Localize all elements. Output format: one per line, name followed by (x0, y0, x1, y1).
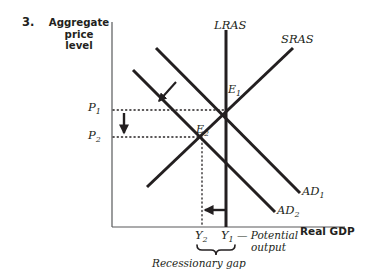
price-level-p1-text: P (88, 100, 96, 114)
ad-shift-arrow (159, 82, 176, 101)
ad1-curve (156, 48, 300, 193)
price-level-p1-subscript: 1 (96, 107, 101, 116)
price-level-p2-subscript: 2 (96, 135, 101, 144)
recessionary-gap-brace (197, 245, 235, 255)
equilibrium-e1-label: E1 (228, 84, 241, 98)
ad-as-recessionary-gap-figure: 3. Aggregatepricelevel Real GDP LRAS SRA… (0, 0, 374, 279)
potential-output-line2: output (237, 241, 315, 253)
equilibrium-e2-subscript: 2 (204, 129, 209, 138)
output-y2-label: Y2 (195, 229, 208, 244)
output-y1-subscript: 1 (229, 235, 234, 244)
y-axis-title: Aggregatepricelevel (48, 17, 110, 52)
potential-output-line1: — Potential (237, 229, 298, 241)
sras-curve (147, 48, 293, 187)
output-y2-subscript: 2 (203, 235, 208, 244)
output-y2-text: Y (195, 228, 203, 242)
y-axis-title-line3: level (65, 40, 92, 51)
potential-output-annotation: — Potentialoutput (237, 229, 315, 253)
price-level-p1-label: P1 (88, 101, 101, 116)
ad2-curve-label: AD2 (277, 204, 300, 219)
price-level-p2-label: P2 (88, 129, 101, 144)
ad2-curve-label-text: AD (277, 203, 295, 217)
equilibrium-e1-subscript: 1 (236, 89, 241, 98)
sras-curve-label: SRAS (281, 33, 314, 46)
ad1-curve-label-subscript: 1 (320, 191, 325, 200)
ad1-curve-label-text: AD (302, 184, 320, 198)
ad2-curve (133, 70, 275, 212)
ad2-curve-label-subscript: 2 (295, 210, 300, 219)
price-level-p2-text: P (88, 128, 96, 142)
y-axis-title-line1: Aggregate (49, 17, 109, 28)
ad1-curve-label: AD1 (302, 185, 325, 200)
output-y1-label: Y1 (221, 229, 234, 244)
equilibrium-e2-label: E2 (196, 124, 209, 138)
equilibrium-e2-text: E (196, 123, 204, 136)
output-y1-text: Y (221, 228, 229, 242)
equilibrium-e1-text: E (228, 83, 236, 96)
lras-curve-label: LRAS (214, 19, 246, 32)
recessionary-gap-annotation: Recessionary gap (152, 257, 246, 269)
y-axis-title-line2: price (65, 29, 94, 40)
question-number: 3. (22, 16, 34, 29)
